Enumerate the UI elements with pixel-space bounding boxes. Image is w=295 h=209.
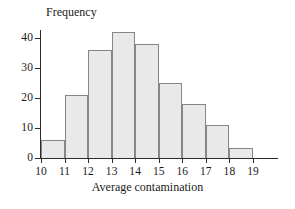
histogram-bar [182,104,206,158]
x-tick-mark [41,158,42,163]
y-tick-mark [35,98,41,99]
histogram-bar [88,50,112,158]
histogram-bar [206,125,230,158]
x-tick-label: 11 [52,165,78,177]
x-tick-mark [253,158,254,163]
y-tick-label: 10 [9,122,33,134]
histogram-bar [41,140,65,158]
x-tick-mark [229,158,230,163]
x-tick-label: 12 [75,165,101,177]
x-tick-label: 19 [240,165,266,177]
x-tick-label: 16 [169,165,195,177]
y-tick-mark [35,68,41,69]
histogram-figure: Frequency 010203040 10111213141516171819… [0,0,295,209]
y-tick-mark [35,38,41,39]
y-axis-label: Frequency [46,6,97,19]
histogram-bar [159,83,183,158]
x-tick-mark [182,158,183,163]
x-tick-label: 10 [28,165,54,177]
y-tick-label: 40 [9,32,33,44]
histogram-bar [229,148,253,159]
x-tick-mark [112,158,113,163]
x-tick-mark [65,158,66,163]
histogram-bar [65,95,89,158]
y-tick-label: 30 [9,62,33,74]
x-tick-mark [206,158,207,163]
histogram-bar [112,32,136,158]
x-tick-label: 18 [216,165,242,177]
x-tick-label: 14 [122,165,148,177]
x-tick-mark [159,158,160,163]
histogram-bar [135,44,159,158]
y-tick-mark [35,128,41,129]
x-tick-label: 15 [146,165,172,177]
y-tick-label: 0 [9,152,33,164]
x-axis-label: Average contamination [0,181,295,194]
x-tick-label: 13 [99,165,125,177]
x-tick-label: 17 [193,165,219,177]
x-tick-mark [88,158,89,163]
x-tick-mark [135,158,136,163]
y-tick-label: 20 [9,92,33,104]
